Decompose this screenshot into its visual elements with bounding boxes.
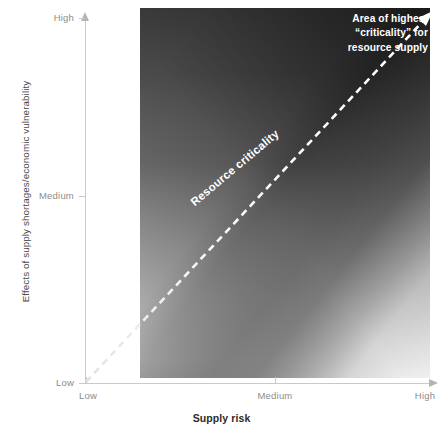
x-tick-low — [86, 377, 87, 383]
annotation-line-1: Area of highest — [296, 12, 428, 26]
annotation-highest-criticality: Area of highest “criticality” for resour… — [296, 12, 428, 55]
y-tick-label-high: High — [54, 12, 74, 23]
x-axis-arrow-icon — [429, 379, 438, 387]
x-axis-line — [85, 383, 430, 384]
x-axis-title: Supply risk — [0, 412, 443, 424]
y-tick-high — [79, 18, 85, 19]
y-tick-label-low: Low — [56, 377, 74, 388]
annotation-line-2: “criticality” for — [296, 26, 428, 40]
y-tick-label-medium: Medium — [39, 190, 74, 201]
y-tick-medium — [79, 196, 85, 197]
y-axis-title: Effects of supply shortages/economic vul… — [20, 42, 31, 342]
y-tick-low — [79, 383, 85, 384]
criticality-matrix-chart: Area of highest “criticality” for resour… — [0, 0, 443, 436]
y-axis-arrow-icon — [81, 12, 89, 21]
x-tick-label-low: Low — [79, 390, 97, 401]
x-tick-label-high: High — [415, 390, 435, 401]
y-axis-line — [85, 20, 86, 384]
annotation-line-3: resource supply — [296, 41, 428, 55]
x-tick-label-medium: Medium — [258, 390, 293, 401]
gradient-plot-field — [140, 8, 430, 378]
